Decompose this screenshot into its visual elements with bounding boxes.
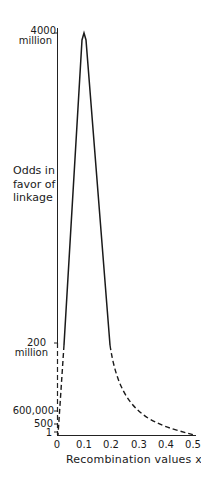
xtick-label-0-2: 0.2 xyxy=(101,439,121,450)
xtick-label-0-5: 0.5 xyxy=(183,439,201,450)
xtick-label-0-3: 0.3 xyxy=(129,439,149,450)
ytick-label-4000-million: million xyxy=(14,35,52,46)
x-axis-title: Recombination values x xyxy=(66,454,201,465)
xtick-label-0-4: 0.4 xyxy=(156,439,176,450)
curve-solid xyxy=(64,33,110,345)
ylabel-line-3: linkage xyxy=(13,191,57,205)
ytick-label-200-million: million xyxy=(10,347,48,358)
xtick-label-0: 0 xyxy=(47,439,67,450)
odds-linkage-chart: 4000 million 200 million 600,000 500 1 O… xyxy=(0,0,201,484)
ytick-label-1: 1 xyxy=(40,427,52,438)
xtick-label-0-1: 0.1 xyxy=(74,439,94,450)
ytick-label-600000: 600,000 xyxy=(6,405,54,416)
curve-dashed-left xyxy=(58,345,64,435)
curve-dashed-right xyxy=(110,345,194,435)
ylabel-line-1: Odds in xyxy=(13,164,57,178)
ylabel-line-2: favor of xyxy=(13,178,57,192)
y-axis-title: Odds in favor of linkage xyxy=(13,164,57,205)
